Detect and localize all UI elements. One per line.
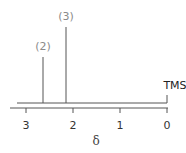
x-tick-label-3: 3 [23, 119, 30, 132]
x-tick-label-2: 2 [70, 119, 77, 132]
x-tick-label-1: 1 [117, 119, 124, 132]
x-tick-label-0: 0 [164, 119, 171, 132]
x-axis-label: δ [92, 134, 99, 148]
peak-3-label: (3) [58, 10, 74, 23]
peak-2-label: (2) [35, 40, 51, 53]
tms-label: TMS [162, 79, 186, 92]
nmr-spectrum-chart: TMS (2) (3) 3 2 1 0 δ [0, 0, 186, 153]
